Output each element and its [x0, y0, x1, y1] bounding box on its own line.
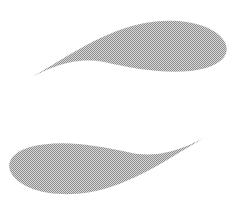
- logo-svg: [0, 0, 235, 212]
- logo-canvas: Abstract crescent logo mark: [0, 0, 235, 212]
